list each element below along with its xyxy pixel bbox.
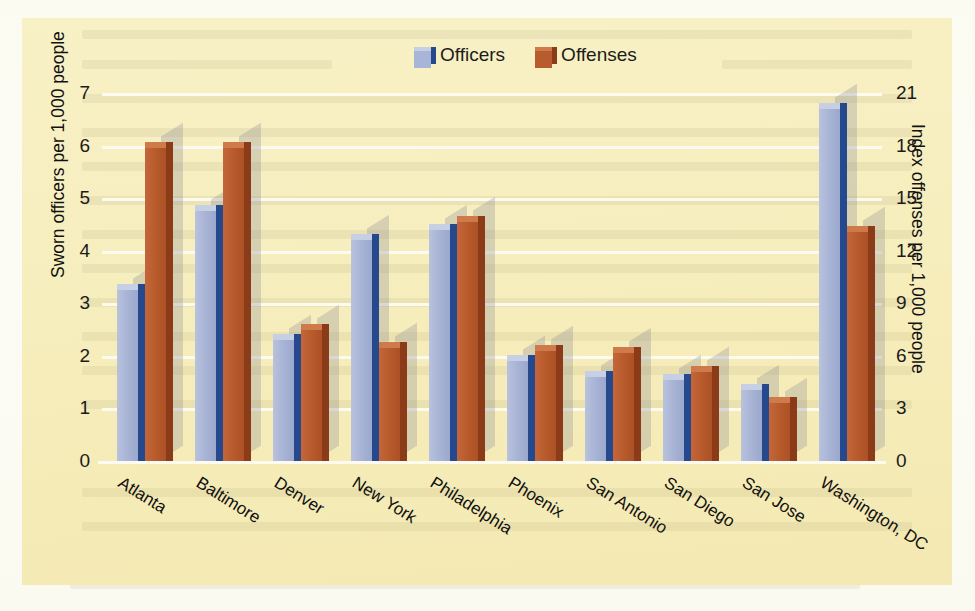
bar-offenses[interactable] [301,330,322,461]
legend-swatch-offenses-icon [535,47,552,64]
bar-groups [102,93,882,461]
chart-panel: Officers Offenses Sworn officers per 1,0… [22,18,952,585]
bar-group [188,93,250,461]
y-axis-left-tick-label: 7 [60,83,90,102]
y-axis-right-tick-label: 3 [896,398,930,417]
bar-column-offenses[interactable] [847,232,868,461]
x-axis-label: Phoenix [505,473,568,523]
bar-officers[interactable] [741,390,762,461]
y-axis-right-tick-label: 0 [896,451,930,470]
bar-officers[interactable] [507,361,528,461]
bar-officers[interactable] [117,290,138,461]
bar-officers[interactable] [663,380,684,461]
y-axis-right-tick-label: 15 [896,188,930,207]
legend-label-offenses: Offenses [561,44,637,66]
y-axis-left-tick-label: 1 [60,398,90,417]
y-axis-left-tick-label: 6 [60,136,90,155]
bar-group [500,93,562,461]
bar-column-offenses[interactable] [613,353,634,461]
plot-area: 76543210 211815129630 [102,93,882,461]
legend-label-officers: Officers [440,44,505,66]
figure-page: Officers Offenses Sworn officers per 1,0… [0,0,975,611]
bar-officers[interactable] [585,377,606,461]
bar-column-officers[interactable] [585,377,606,461]
x-axis-category-labels: AtlantaBaltimoreDenverNew YorkPhiladelph… [102,461,882,581]
bar-offenses[interactable] [145,148,166,461]
bar-column-offenses[interactable] [535,351,556,461]
bar-column-officers[interactable] [429,230,450,461]
legend-item-offenses[interactable]: Offenses [535,44,637,66]
x-axis-label: San Jose [739,473,810,528]
x-axis-label: New York [349,473,421,528]
y-axis-right-tick-label: 12 [896,241,930,260]
bar-officers[interactable] [195,211,216,461]
y-axis-left-tick-label: 5 [60,188,90,207]
chart-legend: Officers Offenses [414,44,637,66]
ghost-text-line [82,30,912,39]
bar-column-offenses[interactable] [379,348,400,461]
bar-officers[interactable] [429,230,450,461]
bar-column-officers[interactable] [663,380,684,461]
bar-column-officers[interactable] [273,340,294,461]
ghost-text-line [722,60,912,69]
bar-group [656,93,718,461]
y-axis-left-tick-label: 2 [60,346,90,365]
bar-group [110,93,172,461]
ghost-text-line [82,60,332,69]
bar-offenses[interactable] [613,353,634,461]
y-axis-right-tick-label: 21 [896,83,930,102]
bar-group [734,93,796,461]
bar-group [266,93,328,461]
bar-column-officers[interactable] [819,109,840,461]
x-axis-label: Philadelphia [427,473,516,539]
x-axis-label: Baltimore [193,473,264,528]
bar-column-offenses[interactable] [301,330,322,461]
bar-column-offenses[interactable] [457,222,478,461]
bar-offenses[interactable] [379,348,400,461]
bar-column-officers[interactable] [351,240,372,461]
bar-column-offenses[interactable] [691,372,712,461]
y-axis-left-tick-label: 3 [60,293,90,312]
bar-column-officers[interactable] [195,211,216,461]
bar-column-officers[interactable] [117,290,138,461]
bar-group [344,93,406,461]
bar-column-offenses[interactable] [769,403,790,461]
bar-column-offenses[interactable] [223,148,244,461]
bar-column-officers[interactable] [507,361,528,461]
bar-column-offenses[interactable] [145,148,166,461]
bar-officers[interactable] [273,340,294,461]
x-axis-label: San Diego [661,473,739,532]
bar-offenses[interactable] [535,351,556,461]
legend-item-officers[interactable]: Officers [414,44,505,66]
bar-officers[interactable] [351,240,372,461]
bar-offenses[interactable] [847,232,868,461]
y-axis-right-tick-label: 6 [896,346,930,365]
bar-offenses[interactable] [223,148,244,461]
legend-swatch-officers-icon [414,47,431,64]
bar-offenses[interactable] [691,372,712,461]
x-axis-label: San Antonio [583,473,671,539]
y-axis-left-tick-label: 4 [60,241,90,260]
bar-offenses[interactable] [457,222,478,461]
y-axis-right-tick-label: 9 [896,293,930,312]
y-axis-left-tick-label: 0 [60,451,90,470]
bar-group [422,93,484,461]
bar-offenses[interactable] [769,403,790,461]
bar-group [812,93,874,461]
y-axis-right-tick-label: 18 [896,136,930,155]
x-axis-label: Denver [271,473,328,519]
x-axis-label: Atlanta [115,473,170,518]
bar-column-officers[interactable] [741,390,762,461]
bar-group [578,93,640,461]
bar-officers[interactable] [819,109,840,461]
